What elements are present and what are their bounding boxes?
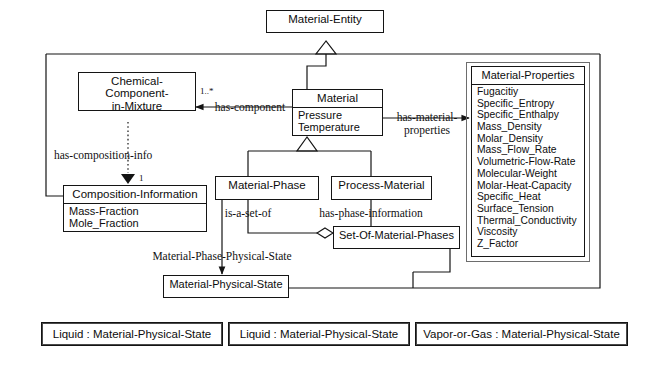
attribute-specific-enthalpy: Specific_Enthalpy	[477, 109, 580, 121]
class-material[interactable]: Material Pressure Temperature	[292, 89, 383, 136]
generalization-triangle-material-entity	[316, 41, 336, 54]
class-material-physical-state[interactable]: Material-Physical-State	[163, 275, 289, 298]
instance-vapor-or-gas[interactable]: Vapor-or-Gas : Material-Physical-State	[415, 322, 628, 346]
instance-liquid-2-label: Liquid : Material-Physical-State	[240, 328, 399, 340]
attribute-z-factor: Z_Factor	[477, 238, 580, 250]
instance-liquid-2-inner: Liquid : Material-Physical-State	[229, 323, 409, 345]
edge-label-has-phase-information: has-phase-information	[288, 207, 454, 220]
attribute-molecular-weight: Molecular-Weight	[477, 168, 580, 180]
class-material-phase[interactable]: Material-Phase	[215, 176, 319, 200]
attribute-surface-tension: Surface_Tension	[477, 203, 580, 215]
composition-arrowhead	[121, 174, 135, 184]
attribute-viscosity: Viscosity	[477, 226, 580, 238]
attribute-mole-fraction: Mole_Fraction	[69, 217, 202, 229]
attribute-specific-entropy: Specific_Entropy	[477, 98, 580, 110]
aggregation-diamond	[317, 228, 333, 238]
class-process-material-name: Process-Material	[332, 177, 431, 194]
attribute-molar-density: Molar_Density	[477, 133, 580, 145]
class-material-entity-name: Material-Entity	[267, 11, 383, 28]
class-material-properties-attributes: Fugacitiy Specific_Entropy Specific_Enth…	[472, 85, 584, 252]
attribute-mass-fraction: Mass-Fraction	[69, 205, 202, 217]
multiplicity-composition-one: 1	[139, 173, 144, 183]
instance-liquid-1[interactable]: Liquid : Material-Physical-State	[41, 322, 223, 346]
class-composition-information-name: Composition-Information	[64, 186, 206, 203]
attribute-specific-heat: Specific_Heat	[477, 191, 580, 203]
diagram-canvas: Material-Entity Chemical-Component- in-M…	[0, 0, 652, 366]
attribute-fugacity: Fugacitiy	[477, 86, 580, 98]
edge-label-material-phase-physical-state: Material-Phase-Physical-State	[124, 250, 320, 263]
class-set-of-material-phases-name: Set-Of-Material-Phases	[334, 227, 459, 244]
attribute-thermal-conductivity: Thermal_Conductivity	[477, 215, 580, 227]
attribute-pressure: Pressure	[298, 109, 378, 121]
edge-label-has-composition-info: has-composition-info	[54, 149, 204, 162]
edge-label-is-a-set-of: is-a-set-of	[208, 207, 288, 220]
class-process-material[interactable]: Process-Material	[331, 176, 432, 200]
multiplicity-has-component: 1..*	[200, 86, 214, 96]
attribute-volumetric-flow-rate: Volumetric-Flow-Rate	[477, 156, 580, 168]
instance-liquid-2[interactable]: Liquid : Material-Physical-State	[228, 322, 410, 346]
attribute-mass-flow-rate: Mass_Flow_Rate	[477, 144, 580, 156]
class-chemical-component-in-mixture-name: Chemical-Component- in-Mixture	[79, 73, 195, 114]
instance-vapor-or-gas-label: Vapor-or-Gas : Material-Physical-State	[423, 328, 620, 340]
class-material-attributes: Pressure Temperature	[293, 108, 382, 136]
class-material-properties-name: Material-Properties	[472, 67, 584, 84]
attribute-molar-heat-capacity: Molar-Heat-Capacity	[477, 180, 580, 192]
class-set-of-material-phases[interactable]: Set-Of-Material-Phases	[333, 226, 460, 249]
class-material-phase-name: Material-Phase	[216, 177, 318, 194]
edge-label-has-component: has-component	[207, 101, 293, 114]
class-material-entity[interactable]: Material-Entity	[266, 10, 384, 33]
instance-liquid-1-label: Liquid : Material-Physical-State	[53, 328, 212, 340]
instance-vapor-or-gas-inner: Vapor-or-Gas : Material-Physical-State	[416, 323, 627, 345]
class-composition-information[interactable]: Composition-Information Mass-Fraction Mo…	[63, 185, 207, 232]
class-material-physical-state-name: Material-Physical-State	[164, 276, 288, 293]
instance-liquid-1-inner: Liquid : Material-Physical-State	[42, 323, 222, 345]
class-composition-information-attributes: Mass-Fraction Mole_Fraction	[64, 204, 206, 232]
attribute-mass-density: Mass_Density	[477, 121, 580, 133]
attribute-temperature: Temperature	[298, 121, 378, 133]
edge-label-has-material-properties: has-material- properties	[388, 111, 466, 136]
class-material-name: Material	[293, 90, 382, 107]
class-material-properties[interactable]: Material-Properties Fugacitiy Specific_E…	[471, 66, 585, 257]
class-chemical-component-in-mixture[interactable]: Chemical-Component- in-Mixture	[78, 72, 196, 111]
